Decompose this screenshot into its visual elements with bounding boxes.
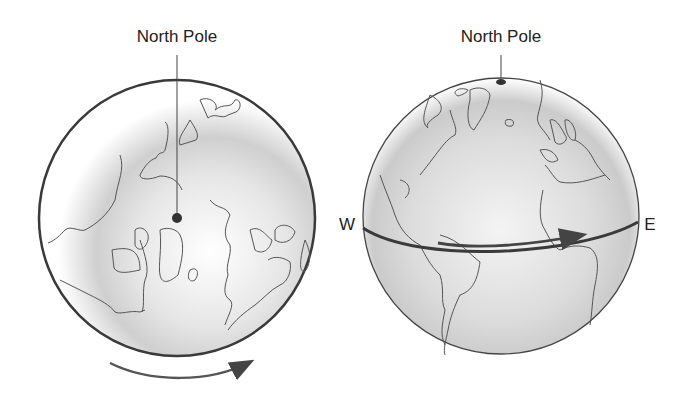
right-globe-outline [363,78,639,354]
left-north-pole-dot [172,213,182,223]
left-north-pole-label: North Pole [137,27,217,46]
east-label: E [644,215,655,234]
earth-rotation-diagram: North Pole North Pole W E [0,0,680,402]
right-north-pole-label: North Pole [461,27,541,46]
west-label: W [339,215,355,234]
left-globe [39,55,315,378]
right-north-pole-dot [496,79,506,85]
left-rotation-arrow-icon [110,362,250,378]
right-globe [363,55,639,355]
